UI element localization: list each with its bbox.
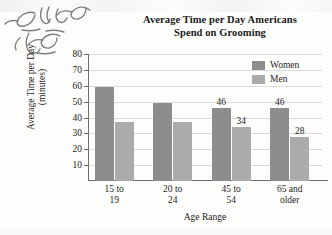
legend-item-women: Women <box>252 58 324 72</box>
x-axis-category-line: 24 <box>144 195 203 206</box>
x-axis-category-1: 20 to24 <box>144 184 203 206</box>
bar-value-label: 28 <box>295 126 305 136</box>
legend-label-women: Women <box>270 60 299 70</box>
x-axis-category-labels: 15 to1920 to2445 to5465 andolder <box>88 184 322 210</box>
y-axis-title-line-1: Average Time per Day <box>26 27 37 147</box>
bar-women-2: 46 <box>212 108 231 181</box>
bar-women-3: 46 <box>270 108 289 181</box>
y-axis-tick-label: 70 <box>73 65 83 75</box>
y-axis-title-line-2: (minutes) <box>37 27 48 147</box>
x-axis-category-line: 15 to <box>85 184 144 195</box>
bar-men-2: 34 <box>232 127 251 181</box>
x-axis-category-line: 45 to <box>202 184 261 195</box>
bar-men-0 <box>115 122 134 181</box>
y-axis-tick-label: 20 <box>73 144 83 154</box>
chart-legend: Women Men <box>252 58 324 86</box>
x-axis-category-line: 19 <box>85 195 144 206</box>
chart-title-line-1: Average Time per Day Americans <box>108 14 332 27</box>
bar-chart: Average Time per Day Americans Spend on … <box>0 0 332 235</box>
x-axis-category-0: 15 to19 <box>85 184 144 206</box>
y-axis-tick-label: 10 <box>73 160 83 170</box>
legend-swatch-women-icon <box>252 61 265 70</box>
x-axis-category-line: 20 to <box>144 184 203 195</box>
bar-men-3: 28 <box>290 137 309 181</box>
bar-value-label: 34 <box>237 116 247 126</box>
bar-value-label: 46 <box>275 97 285 107</box>
y-axis-tick-label: 30 <box>73 128 83 138</box>
x-axis-category-2: 45 to54 <box>202 184 261 206</box>
scanned-page: Average Time per Day Americans Spend on … <box>0 0 332 235</box>
bar-value-label: 46 <box>217 97 227 107</box>
x-axis-category-line: 54 <box>202 195 261 206</box>
chart-title: Average Time per Day Americans Spend on … <box>108 14 332 39</box>
bar-men-1 <box>173 122 192 181</box>
legend-label-men: Men <box>270 74 287 84</box>
bar-women-1 <box>153 103 172 181</box>
y-axis-tick-label: 40 <box>73 113 83 123</box>
bar-women-0 <box>95 87 114 181</box>
x-axis-category-line: older <box>261 195 320 206</box>
x-axis-category-3: 65 andolder <box>261 184 320 206</box>
legend-swatch-men-icon <box>252 75 265 84</box>
y-axis-title: Average Time per Day (minutes) <box>26 27 48 147</box>
legend-item-men: Men <box>252 72 324 86</box>
y-axis-tick-label: 60 <box>73 81 83 91</box>
y-axis-tick-label: 50 <box>73 97 83 107</box>
x-axis-title: Age Range <box>88 212 322 222</box>
x-axis-category-line: 65 and <box>261 184 320 195</box>
y-axis-tick-label: 80 <box>73 49 83 59</box>
chart-title-line-2: Spend on Grooming <box>108 27 332 40</box>
